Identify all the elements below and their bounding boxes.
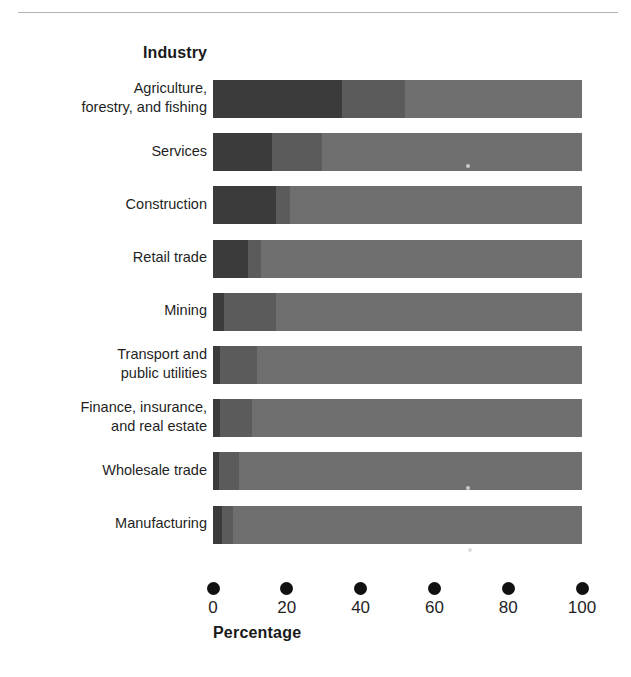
category-label: Mining	[0, 289, 207, 333]
bar-segment	[248, 240, 261, 278]
bar-segment	[213, 293, 224, 331]
x-axis-tick-mark	[354, 582, 367, 595]
stacked-bar	[213, 506, 582, 544]
stacked-bar	[213, 133, 582, 171]
category-label: Agriculture,forestry, and fishing	[0, 76, 207, 120]
y-axis-title: Industry	[0, 44, 207, 62]
bar-segment	[224, 293, 276, 331]
chart-row: Manufacturing	[0, 502, 631, 546]
bar-segment	[342, 80, 405, 118]
category-label: Construction	[0, 182, 207, 226]
category-label: Retail trade	[0, 236, 207, 280]
bar-segment	[220, 399, 251, 437]
category-label-line: forestry, and fishing	[82, 98, 207, 117]
bar-segment	[213, 346, 220, 384]
x-axis-tick-label: 0	[173, 598, 253, 618]
bar-segment	[213, 133, 272, 171]
category-label-line: Agriculture,	[134, 79, 207, 98]
bar-segment	[213, 506, 222, 544]
bar-segment	[213, 240, 248, 278]
chart-row: Construction	[0, 182, 631, 226]
chart-row: Wholesale trade	[0, 448, 631, 492]
category-label-line: Services	[151, 142, 207, 161]
x-axis: Percentage 020406080100	[0, 582, 631, 652]
page-rule	[18, 12, 618, 13]
stacked-bar	[213, 399, 582, 437]
scan-artifact	[466, 164, 470, 168]
bar-segment	[239, 452, 582, 490]
category-label: Wholesale trade	[0, 448, 207, 492]
stacked-bar	[213, 186, 582, 224]
chart-row: Retail trade	[0, 236, 631, 280]
category-label-line: and real estate	[111, 417, 207, 436]
category-label-line: Transport and	[117, 345, 207, 364]
category-label-line: Construction	[126, 195, 207, 214]
bar-segment	[290, 186, 582, 224]
category-label-line: Wholesale trade	[102, 461, 207, 480]
bar-segment	[276, 293, 582, 331]
bar-segment	[257, 346, 582, 384]
category-label-line: Manufacturing	[115, 514, 207, 533]
category-label-line: Mining	[164, 301, 207, 320]
stacked-bar-chart-figure: Industry Agriculture,forestry, and fishi…	[0, 0, 631, 677]
x-axis-title: Percentage	[213, 624, 301, 642]
x-axis-tick-mark	[576, 582, 589, 595]
category-label: Services	[0, 129, 207, 173]
bar-segment	[219, 452, 239, 490]
bar-segment	[213, 80, 342, 118]
stacked-bar	[213, 240, 582, 278]
bar-segment	[405, 80, 582, 118]
x-axis-tick-label: 100	[542, 598, 622, 618]
x-axis-tick-mark	[428, 582, 441, 595]
scan-artifact	[468, 548, 472, 552]
x-axis-tick-mark	[502, 582, 515, 595]
stacked-bar	[213, 452, 582, 490]
x-axis-tick-label: 20	[247, 598, 327, 618]
category-label-line: Finance, insurance,	[80, 398, 207, 417]
chart-row: Finance, insurance,and real estate	[0, 395, 631, 439]
category-label-line: Retail trade	[133, 248, 207, 267]
bar-segment	[261, 240, 582, 278]
category-label: Transport andpublic utilities	[0, 342, 207, 386]
bar-segment	[233, 506, 582, 544]
stacked-bar	[213, 293, 582, 331]
chart-row: Services	[0, 129, 631, 173]
chart-row: Mining	[0, 289, 631, 333]
bar-segment	[220, 346, 257, 384]
bar-segment	[276, 186, 291, 224]
scan-artifact	[466, 486, 470, 490]
bar-segment	[222, 506, 233, 544]
bar-segment	[272, 133, 322, 171]
x-axis-tick-label: 40	[321, 598, 401, 618]
stacked-bar	[213, 346, 582, 384]
x-axis-tick-mark	[280, 582, 293, 595]
bar-segment	[213, 399, 220, 437]
chart-row: Transport andpublic utilities	[0, 342, 631, 386]
stacked-bar	[213, 80, 582, 118]
category-label: Manufacturing	[0, 502, 207, 546]
chart-row: Agriculture,forestry, and fishing	[0, 76, 631, 120]
x-axis-tick-mark	[207, 582, 220, 595]
x-axis-tick-label: 80	[468, 598, 548, 618]
category-label-line: public utilities	[121, 364, 207, 383]
bar-segment	[213, 186, 276, 224]
x-axis-tick-label: 60	[394, 598, 474, 618]
bar-segment	[322, 133, 582, 171]
category-label: Finance, insurance,and real estate	[0, 395, 207, 439]
bar-segment	[252, 399, 582, 437]
